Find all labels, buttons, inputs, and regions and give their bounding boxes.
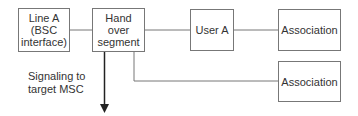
signaling-annotation-line-1: Signaling to [28, 70, 86, 83]
node-association-1-label: Association [281, 24, 337, 36]
node-line-a-label-3: interface) [21, 36, 67, 48]
node-association-1: Association [278, 9, 341, 51]
node-handover-label-3: segment [97, 36, 139, 48]
node-association-2: Association [278, 61, 341, 102]
node-association-2-label: Association [281, 76, 337, 88]
node-line-a: Line A (BSC interface) [18, 8, 70, 52]
node-handover-label-2: over [97, 24, 139, 36]
node-line-a-label-1: Line A [21, 12, 67, 24]
signaling-annotation-line-2: target MSC [28, 83, 86, 96]
arrow-head-icon [100, 104, 109, 113]
node-handover-segment: Hand over segment [92, 8, 145, 52]
diagram-canvas: Line A (BSC interface) Hand over segment… [0, 0, 358, 116]
node-line-a-label-2: (BSC [21, 24, 67, 36]
signaling-annotation: Signaling to target MSC [28, 70, 86, 96]
node-handover-label-1: Hand [97, 12, 139, 24]
edge-handover-assoc2 [134, 52, 278, 81]
node-user-a: User A [190, 9, 234, 51]
node-user-a-label: User A [195, 24, 228, 36]
